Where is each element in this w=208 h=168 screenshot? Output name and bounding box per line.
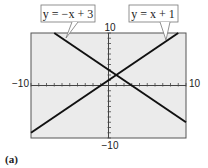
y-max-label: 10 <box>104 22 116 33</box>
caption: (a) <box>5 153 18 166</box>
eq1-label: y = −x + 3 <box>43 7 93 21</box>
chart: y = −x + 3 y = x + 1 10 −10 −10 10 (a) <box>0 0 208 168</box>
y-min-label: −10 <box>102 140 119 151</box>
eq2-label: y = x + 1 <box>131 7 175 21</box>
x-max-label: 10 <box>189 78 201 89</box>
x-min-label: −10 <box>12 78 29 89</box>
